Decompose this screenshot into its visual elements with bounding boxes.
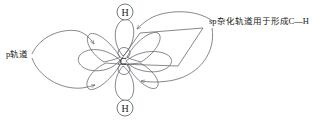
annotation-arrow-group (32, 12, 214, 88)
orbital-diagram-figure: H H C p轨道 sp杂化轨道用于形成C—H (0, 0, 321, 120)
hydrogen-top-symbol: H (121, 7, 128, 18)
carbon-center-symbol: C (120, 56, 127, 67)
sp-hybrid-orbital-label: sp杂化轨道用于形成C—H (209, 17, 309, 26)
p-orbital-label: p轨道 (6, 50, 28, 59)
arrow-p-to-lower-lobe (32, 58, 95, 88)
p-lobe-lower-right (127, 63, 158, 89)
arrow-sp-to-top-lobe (137, 12, 214, 29)
arrow-p-to-upper-lobe (32, 30, 94, 54)
p-lobe-upper-right (127, 32, 160, 62)
atom-label-group: H H C (117, 4, 133, 116)
hydrogen-bottom-symbol: H (121, 103, 128, 114)
reference-plane-parallelogram (118, 28, 203, 66)
p-lobe-left (78, 50, 120, 71)
arrow-sp-to-bottom-lobe (141, 28, 213, 82)
